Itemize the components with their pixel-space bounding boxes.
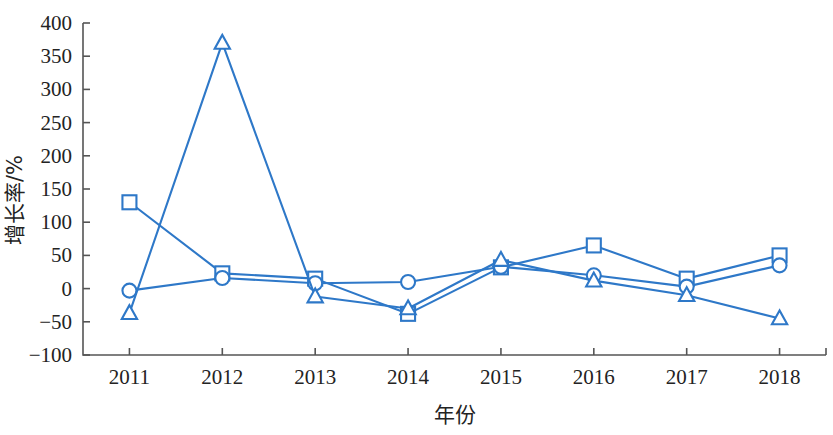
y-tick-label: 0 (62, 277, 73, 301)
chart-canvas: −100−50050100150200250300350400 20112012… (0, 0, 833, 435)
y-tick-label: −50 (39, 310, 72, 334)
y-tick-label: −100 (29, 343, 72, 367)
marker-square (587, 238, 601, 252)
y-axis-title: 增长率/% (3, 155, 27, 245)
y-tick-label: 350 (41, 44, 73, 68)
y-tick-label: 100 (41, 210, 73, 234)
y-tick-label: 200 (41, 144, 73, 168)
marker-square (122, 195, 136, 209)
y-tick-label: 300 (41, 77, 73, 101)
marker-triangle (493, 252, 508, 266)
marker-triangle (215, 35, 230, 49)
marker-circle (215, 271, 229, 285)
y-tick-label: 400 (41, 11, 73, 35)
axis-group (83, 23, 826, 355)
x-tick-label: 2015 (480, 365, 522, 389)
x-tick-label: 2016 (573, 365, 615, 389)
x-tick-label: 2012 (201, 365, 243, 389)
y-axis-tick-labels: −100−50050100150200250300350400 (29, 11, 72, 367)
y-tick-label: 150 (41, 177, 73, 201)
growth-rate-line-chart: −100−50050100150200250300350400 20112012… (0, 0, 833, 435)
x-tick-label: 2014 (387, 365, 430, 389)
y-tick-label: 250 (41, 111, 73, 135)
y-tick-label: 50 (51, 243, 72, 267)
x-axis-title: 年份 (434, 403, 476, 427)
x-tick-label: 2018 (759, 365, 801, 389)
x-tick-label: 2011 (109, 365, 150, 389)
marker-circle (773, 258, 787, 272)
x-tick-label: 2013 (294, 365, 336, 389)
data-series-group (122, 35, 787, 324)
x-tick-label: 2017 (666, 365, 708, 389)
marker-circle (401, 275, 415, 289)
axis-lines (83, 23, 826, 355)
marker-triangle (122, 305, 137, 319)
x-axis-tick-labels: 20112012201320142015201620172018 (109, 365, 801, 389)
marker-circle (122, 284, 136, 298)
marker-triangle (308, 289, 323, 303)
